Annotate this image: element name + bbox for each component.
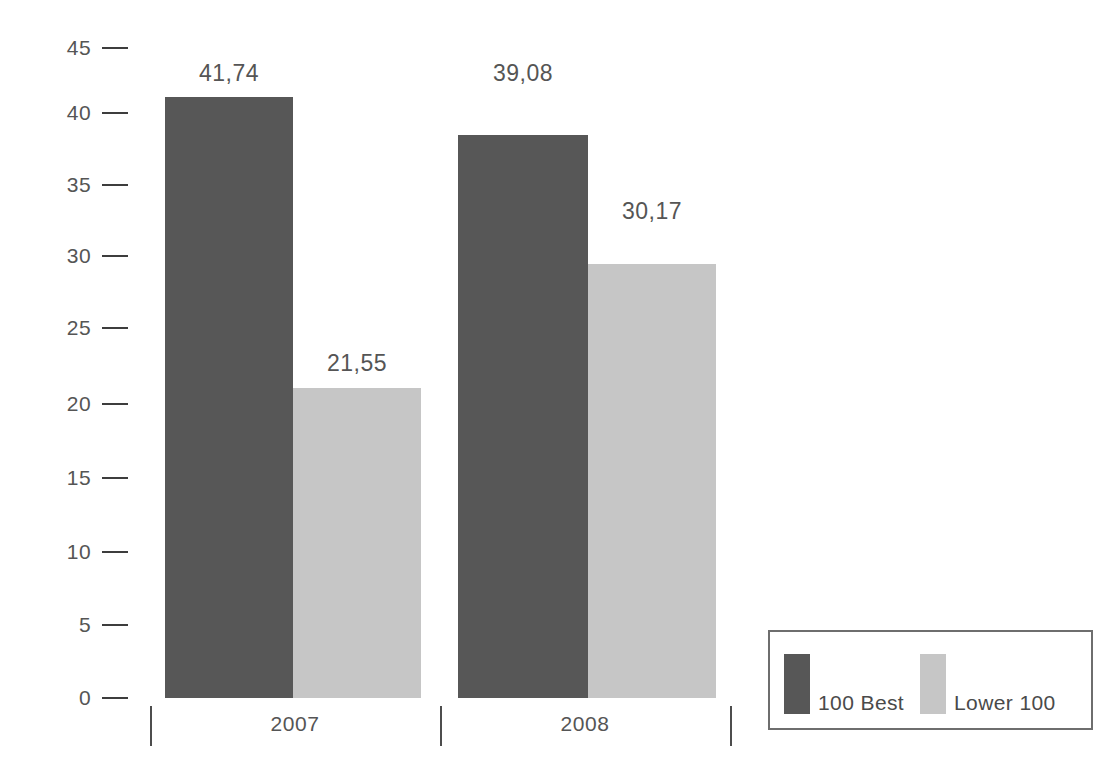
legend-swatch-icon (784, 654, 810, 714)
legend-label: Lower 100 (954, 692, 1056, 714)
legend-item-100-best[interactable]: 100 Best (784, 654, 904, 714)
bar-2007-lower-100[interactable] (293, 388, 421, 698)
legend-item-lower-100[interactable]: Lower 100 (920, 654, 1056, 714)
legend-swatch-icon (920, 654, 946, 714)
x-axis-category-2008: 2008 (440, 712, 730, 736)
bar-value-label-2007-100-best: 41,74 (155, 60, 303, 87)
x-axis-category-2007: 2007 (150, 712, 440, 736)
legend: 100 Best Lower 100 (768, 630, 1093, 730)
bar-value-label-2007-lower-100: 21,55 (283, 350, 431, 377)
bar-2008-100-best[interactable] (458, 135, 588, 698)
bar-chart: 45 40 35 30 25 20 15 10 (0, 0, 1109, 780)
bar-2008-lower-100[interactable] (588, 264, 716, 698)
bar-2007-100-best[interactable] (165, 97, 293, 698)
x-axis-separator (730, 706, 732, 746)
bar-value-label-2008-100-best: 39,08 (449, 60, 597, 87)
bar-value-label-2008-lower-100: 30,17 (578, 198, 726, 225)
legend-label: 100 Best (818, 692, 904, 714)
